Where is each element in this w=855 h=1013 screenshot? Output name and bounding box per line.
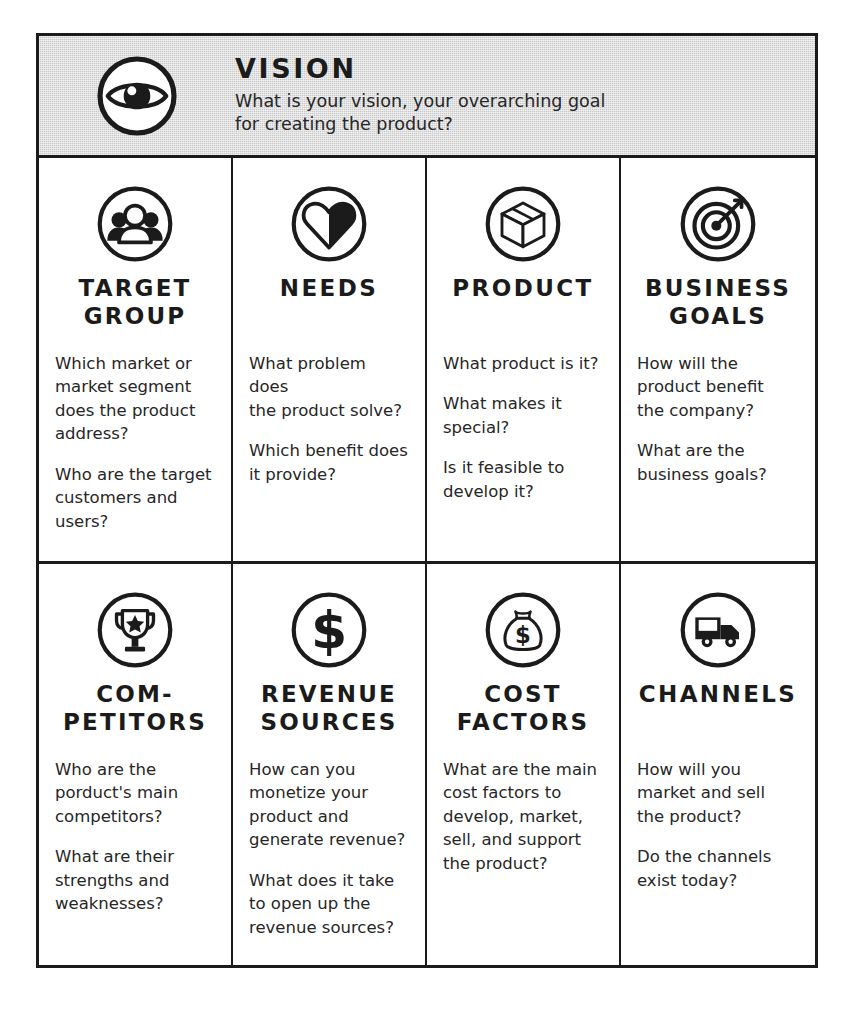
cell-revenue-sources: $ REVENUE SOURCES How can you monetize y… xyxy=(233,564,427,967)
vision-title: VISION xyxy=(235,55,605,83)
cell-paragraph: Who are the target customers and users? xyxy=(55,463,215,533)
cell-body: What problem does the product solve? Whi… xyxy=(249,352,409,486)
cell-paragraph: Is it feasible to develop it? xyxy=(443,456,603,503)
cell-channels: CHANNELS How will you market and sell th… xyxy=(621,564,815,967)
cell-paragraph: Who are the porduct's main competitors? xyxy=(55,758,215,828)
people-group-icon xyxy=(93,176,177,272)
cell-competitors: COM- PETITORS Who are the porduct's main… xyxy=(39,564,233,967)
cell-title: COST FACTORS xyxy=(457,680,590,742)
cell-paragraph: What are the main cost factors to develo… xyxy=(443,758,603,875)
cell-body: How will you market and sell the product… xyxy=(637,758,799,892)
cell-paragraph: How will you market and sell the product… xyxy=(637,758,799,828)
svg-text:$: $ xyxy=(515,622,531,648)
cell-body: What are the main cost factors to develo… xyxy=(443,758,603,875)
vision-text-block: VISION What is your vision, your overarc… xyxy=(235,55,623,137)
cell-title: REVENUE SOURCES xyxy=(260,680,397,742)
vision-header: VISION What is your vision, your overarc… xyxy=(39,36,815,158)
cell-paragraph: How will the product benefit the company… xyxy=(637,352,799,422)
cell-target-group: TARGET GROUP Which market or market segm… xyxy=(39,158,233,561)
trophy-icon xyxy=(93,582,177,678)
cell-paragraph: What product is it? xyxy=(443,352,603,375)
money-bag-icon: $ xyxy=(481,582,565,678)
cell-title: PRODUCT xyxy=(452,274,593,336)
cell-body: Which market or market segment does the … xyxy=(55,352,215,533)
vision-icon-container xyxy=(39,53,235,139)
cell-paragraph: What does it take to open up the revenue… xyxy=(249,869,409,939)
cell-needs: NEEDS What problem does the product solv… xyxy=(233,158,427,561)
cell-body: How will the product benefit the company… xyxy=(637,352,799,486)
product-vision-board: VISION What is your vision, your overarc… xyxy=(36,33,818,968)
svg-text:$: $ xyxy=(311,600,347,660)
cell-paragraph: Which market or market segment does the … xyxy=(55,352,215,446)
target-icon xyxy=(676,176,760,272)
cell-paragraph: What are their strengths and weaknesses? xyxy=(55,845,215,915)
cell-cost-factors: $ COST FACTORS What are the main cost fa… xyxy=(427,564,621,967)
cell-title: TARGET GROUP xyxy=(79,274,192,336)
box-icon xyxy=(481,176,565,272)
delivery-truck-icon xyxy=(676,582,760,678)
cell-title: COM- PETITORS xyxy=(63,680,207,742)
cell-paragraph: What problem does the product solve? xyxy=(249,352,409,422)
cell-paragraph: Which benefit does it provide? xyxy=(249,439,409,486)
heart-icon xyxy=(287,176,371,272)
cell-title: CHANNELS xyxy=(639,680,798,742)
vision-description: What is your vision, your overarching go… xyxy=(235,90,605,136)
cell-paragraph: What are the business goals? xyxy=(637,439,799,486)
cell-body: Who are the porduct's main competitors? … xyxy=(55,758,215,916)
board-row-top: TARGET GROUP Which market or market segm… xyxy=(39,158,815,564)
cell-paragraph: What makes it special? xyxy=(443,392,603,439)
cell-product: PRODUCT What product is it? What makes i… xyxy=(427,158,621,561)
cell-body: How can you monetize your product and ge… xyxy=(249,758,409,939)
cell-title: BUSINESS GOALS xyxy=(645,274,791,336)
cell-body: What product is it? What makes it specia… xyxy=(443,352,603,503)
cell-paragraph: Do the channels exist today? xyxy=(637,845,799,892)
cell-title: NEEDS xyxy=(280,274,378,336)
board-row-bottom: COM- PETITORS Who are the porduct's main… xyxy=(39,564,815,967)
eye-icon xyxy=(94,53,180,139)
cell-business-goals: BUSINESS GOALS How will the product bene… xyxy=(621,158,815,561)
cell-paragraph: How can you monetize your product and ge… xyxy=(249,758,409,852)
dollar-sign-icon: $ xyxy=(287,582,371,678)
